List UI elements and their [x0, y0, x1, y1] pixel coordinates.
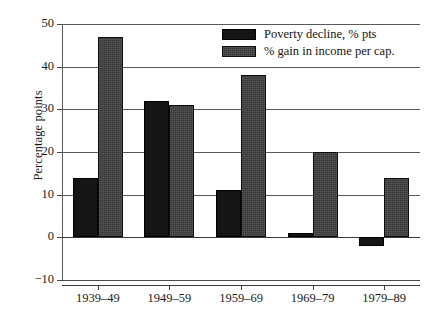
y-axis-tick-label: 0: [10, 229, 54, 244]
y-axis-tick-label: 30: [10, 101, 54, 116]
bar: [288, 233, 313, 237]
x-axis-tick: [98, 285, 99, 290]
legend-item-poverty-decline: Poverty decline, % pts: [222, 27, 418, 42]
x-axis-tick-label: 1979–89: [344, 291, 424, 306]
bar: [169, 105, 194, 237]
bar: [216, 190, 241, 237]
x-axis-tick: [241, 285, 242, 290]
y-axis-tick-label: 20: [10, 144, 54, 159]
legend-item-label: % gain in income per cap.: [264, 44, 395, 59]
legend-swatch-icon: [222, 46, 256, 57]
legend-item-label: Poverty decline, % pts: [264, 27, 376, 42]
plot-area: [62, 24, 420, 280]
y-axis-tick-label: 40: [10, 59, 54, 74]
x-axis-tick: [384, 285, 385, 290]
gridline: [62, 280, 420, 281]
x-axis-tick-label: 1949–59: [129, 291, 209, 306]
bar: [73, 178, 98, 238]
bar: [241, 75, 266, 237]
y-axis-tick-label: 50: [10, 16, 54, 31]
bar: [313, 152, 338, 237]
bar: [384, 178, 409, 238]
legend: Poverty decline, % pts % gain in income …: [222, 27, 418, 61]
y-axis-tick-label: 10: [10, 187, 54, 202]
bar: [359, 237, 384, 246]
x-axis-tick-label: 1959–69: [201, 291, 281, 306]
y-axis-tick-label: −10: [10, 272, 54, 287]
legend-item-income-gain: % gain in income per cap.: [222, 44, 418, 59]
x-axis-tick-label: 1939–49: [58, 291, 138, 306]
x-axis-tick-label: 1969–79: [273, 291, 353, 306]
bar: [144, 101, 169, 238]
bar-chart: Percentage points 50403020100−10 1939–49…: [0, 0, 433, 314]
x-axis-tick: [169, 285, 170, 290]
legend-swatch-icon: [222, 29, 256, 40]
bar: [98, 37, 123, 238]
gridline: [62, 24, 420, 25]
x-axis-tick: [313, 285, 314, 290]
